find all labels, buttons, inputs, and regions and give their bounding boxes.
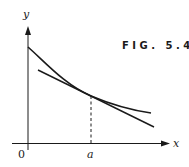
y-axis-label: y <box>23 8 29 21</box>
figure-caption: FIG. 5.4 <box>122 40 189 51</box>
point-a-label: a <box>87 148 94 161</box>
x-axis-label: x <box>173 137 179 150</box>
y-axis-arrow-icon <box>25 26 31 35</box>
figure-canvas <box>0 0 189 167</box>
origin-label: 0 <box>18 148 25 161</box>
curve <box>28 47 151 113</box>
tangent-line <box>38 70 154 127</box>
x-axis-arrow-icon <box>161 141 170 147</box>
